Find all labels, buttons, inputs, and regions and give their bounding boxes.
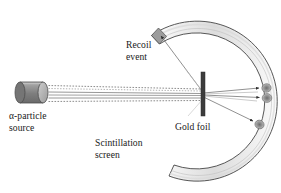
gold-foil [201,72,205,116]
figure-canvas [0,0,281,193]
screen-band [152,21,278,181]
alpha-particle-source [15,82,48,103]
beam-dashed-top [49,86,202,90]
label-alpha-particle-source: α-particle source [9,110,46,133]
ray-faint-upleft [186,70,203,92]
label-alpha-particle-source-line1: α-particle [9,110,46,121]
label-recoil-event: Recoil event [126,39,151,62]
label-scintillation-screen-line1: Scintillation [95,137,143,148]
label-recoil-event-line1: Recoil [126,39,151,50]
rutherford-experiment-figure: α-particle source Recoil event Gold foil… [0,0,281,193]
label-scintillation-screen: Scintillation screen [95,137,143,160]
gold-foil-bar [201,72,205,116]
label-alpha-particle-source-line2: source [9,122,46,134]
flash-center-spot [262,94,272,103]
source-back-cap [15,82,25,103]
label-recoil-event-line2: event [126,51,151,63]
ray-forward-lower [204,97,254,121]
alpha-beam [49,86,202,102]
beam-dashed-bottom [49,101,202,102]
source-front-cap [38,82,48,103]
label-scintillation-screen-line2: screen [95,149,143,161]
scintillation-screen-arc [152,21,278,181]
beam-solid-center [49,95,202,96]
label-gold-foil: Gold foil [175,121,210,133]
flash-spot-group [152,28,272,130]
beam-solid-upper [49,92,202,94]
label-gold-foil-line1: Gold foil [175,121,210,132]
ray-forward-center [204,95,260,98]
